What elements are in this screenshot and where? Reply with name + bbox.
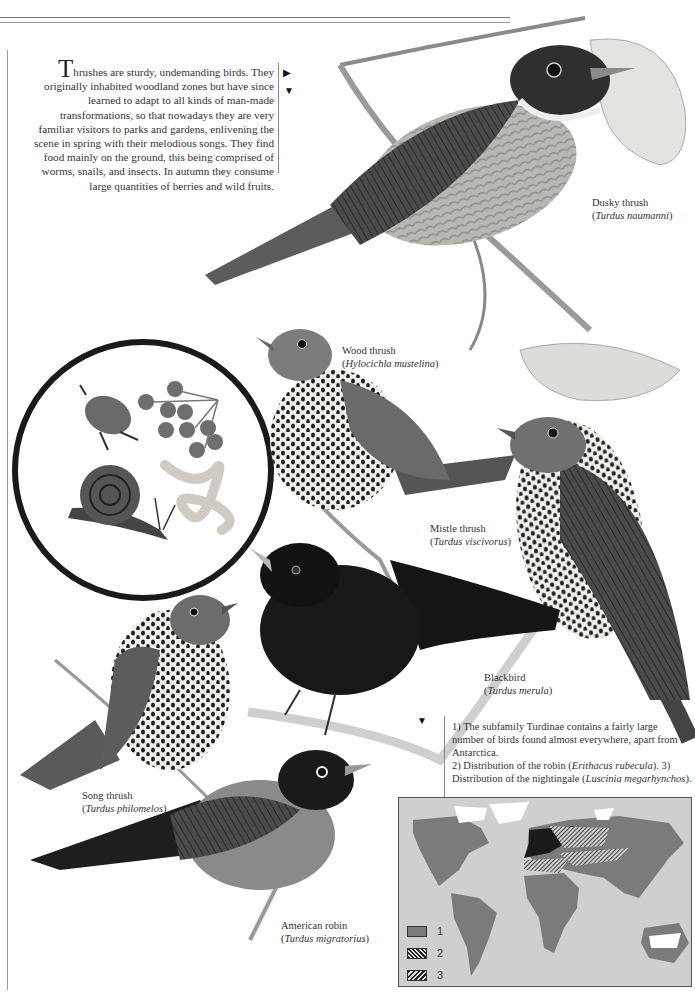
scientific-name: Turdus naumanni — [596, 210, 669, 221]
down-triangle-icon: ▼ — [417, 716, 427, 726]
swatch-hatch-diagonal-icon — [407, 970, 427, 981]
song-thrush-illustration — [20, 595, 238, 800]
swatch-solid-icon — [407, 926, 427, 937]
map-note: 1) The subfamily Turdinae contains a fai… — [452, 720, 692, 785]
scientific-name: Turdus viscivorus — [434, 536, 508, 547]
legend-item-3: 3 — [407, 964, 443, 986]
distribution-map: 1 2 3 — [398, 797, 692, 987]
scientific-name: Turdus migratorius — [285, 933, 366, 944]
common-name: Mistle thrush — [430, 522, 511, 535]
common-name: American robin — [281, 919, 369, 932]
dropcap: T — [58, 55, 73, 82]
intro-paragraph: Thrushes are sturdy, undemanding birds. … — [30, 60, 274, 193]
common-name: Blackbird — [484, 671, 552, 684]
down-triangle-icon: ▼ — [284, 86, 294, 96]
right-triangle-icon: ▶ — [283, 68, 291, 78]
food-inset — [15, 342, 271, 598]
common-name: Wood thrush — [342, 344, 439, 357]
caption-song-thrush: Song thrush (Turdus philomelos) — [82, 789, 167, 815]
swatch-hatch-dense-icon — [407, 948, 427, 959]
american-robin-illustration — [30, 750, 372, 940]
scientific-name: Hylocichla mustelina — [346, 358, 436, 369]
caption-blackbird: Blackbird (Turdus merula) — [484, 671, 552, 697]
caption-wood-thrush: Wood thrush (Hylocichla mustelina) — [342, 344, 439, 370]
map-legend: 1 2 3 — [407, 920, 443, 986]
legend-item-2: 2 — [407, 942, 443, 964]
caption-dusky-thrush: Dusky thrush (Turdus naumanni) — [592, 196, 672, 222]
caption-mistle-thrush: Mistle thrush (Turdus viscivorus) — [430, 522, 511, 548]
common-name: Song thrush — [82, 789, 167, 802]
scientific-name: Turdus merula — [488, 685, 549, 696]
note-divider — [444, 716, 445, 798]
intro-divider — [278, 63, 279, 173]
intro-text: hrushes are sturdy, undemanding birds. T… — [34, 66, 274, 192]
scientific-name: Turdus philomelos — [86, 803, 164, 814]
caption-american-robin: American robin (Turdus migratorius) — [281, 919, 369, 945]
common-name: Dusky thrush — [592, 196, 672, 209]
legend-item-1: 1 — [407, 920, 443, 942]
